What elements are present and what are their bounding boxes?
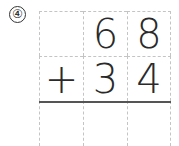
answer-cell-c1[interactable] [83,101,127,146]
operator-cell: + [39,56,83,101]
addition-grid: 6 8 + 3 4 [39,11,171,146]
cell-r1-c2: 4 [127,56,171,101]
answer-cell-c0[interactable] [39,101,83,146]
problem-number-badge: ④ [9,6,26,23]
cell-r1-c1: 3 [83,56,127,101]
sum-rule-line [39,101,171,103]
cell-r0-c0 [39,11,83,56]
answer-cell-c2[interactable] [127,101,171,146]
cell-r0-c2: 8 [127,11,171,56]
cell-r0-c1: 6 [83,11,127,56]
